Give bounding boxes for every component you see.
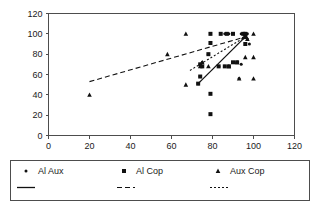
data-point-square xyxy=(231,32,235,36)
data-point-square xyxy=(243,42,247,46)
y-tick-label: 20 xyxy=(32,110,42,120)
plot-area-frame xyxy=(49,14,295,136)
data-point-dot xyxy=(240,63,243,66)
x-tick-label: 100 xyxy=(246,141,261,151)
y-tick-label: 0 xyxy=(37,131,42,141)
y-tick-label: 60 xyxy=(32,70,42,80)
y-tick-label: 40 xyxy=(32,90,42,100)
x-tick-label: 40 xyxy=(125,141,135,151)
x-tick-label: 60 xyxy=(166,141,176,151)
data-point-square xyxy=(196,82,200,86)
data-point-dot xyxy=(25,170,28,173)
y-tick-label: 100 xyxy=(27,29,42,39)
chart-canvas: 020406080100120 020406080100120 Al AuxAl… xyxy=(0,0,327,211)
data-point-square xyxy=(208,32,212,36)
y-tick-label: 120 xyxy=(27,9,42,19)
y-tick-label: 80 xyxy=(32,49,42,59)
data-point-square xyxy=(225,32,229,36)
data-point-square xyxy=(231,60,235,64)
data-point-square xyxy=(208,112,212,116)
data-point-square xyxy=(122,169,126,173)
legend-marker-label: Al Aux xyxy=(38,166,64,176)
x-tick-label: 120 xyxy=(287,141,302,151)
x-tick-label: 80 xyxy=(207,141,217,151)
data-point-square xyxy=(223,64,227,68)
data-point-square xyxy=(219,32,223,36)
scatter-chart-figure: 020406080100120 020406080100120 Al AuxAl… xyxy=(0,0,327,211)
x-tick-label: 20 xyxy=(84,141,94,151)
data-point-square xyxy=(208,41,212,45)
data-point-dot xyxy=(248,43,251,46)
data-point-square xyxy=(206,52,210,56)
data-point-square xyxy=(217,64,221,68)
legend-marker-label: Aux Cop xyxy=(230,166,265,176)
legend-marker-label: Al Cop xyxy=(136,166,163,176)
data-point-square xyxy=(208,92,212,96)
data-point-square xyxy=(198,75,202,79)
x-tick-label: 0 xyxy=(46,141,51,151)
